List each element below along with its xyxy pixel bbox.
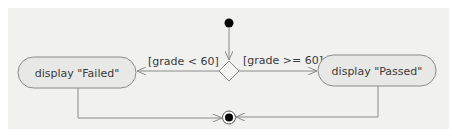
activity-diagram: [grade < 60] [grade >= 60] display "Fail… (0, 0, 452, 137)
edge-passed-to-final (236, 86, 378, 117)
final-node-icon (223, 111, 236, 124)
edge-failed-to-final (78, 88, 222, 118)
initial-node-icon (225, 19, 234, 28)
guard-fail-label: [grade < 60] (148, 55, 219, 68)
action-passed-label: display "Passed" (332, 65, 423, 78)
action-failed-label: display "Failed" (35, 67, 120, 80)
decision-node-icon (219, 61, 239, 81)
guard-pass-label: [grade >= 60] (243, 54, 323, 67)
